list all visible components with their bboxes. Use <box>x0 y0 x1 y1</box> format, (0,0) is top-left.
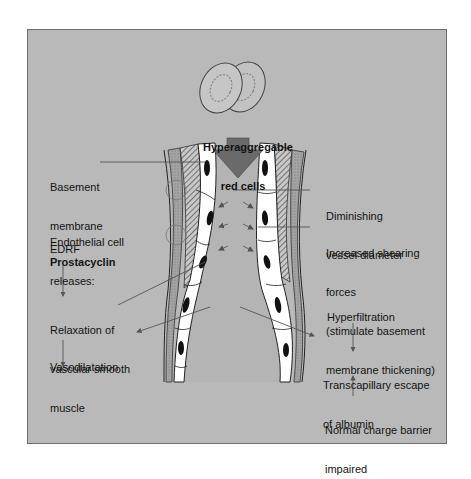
label-line: Relaxation of <box>50 324 130 337</box>
label-hyperfiltration: Hyperfiltration <box>327 311 395 324</box>
label-line: Transcapillary escape <box>323 379 430 392</box>
label-line: impaired <box>325 463 432 476</box>
label-prostacyclin: Prostacyclin <box>50 256 115 269</box>
label-line: Basement <box>50 181 103 194</box>
label-line: releases: <box>50 275 124 288</box>
label-line: (stimulate basement <box>326 325 435 338</box>
label-line: Increased shearing <box>326 247 435 260</box>
label-line: Hyperaggregable <box>203 141 283 154</box>
label-line: muscle <box>50 402 130 415</box>
label-edrf: EDRF <box>50 243 80 256</box>
label-line: forces <box>326 286 435 299</box>
label-vasodilatation: Vasodilatation <box>50 361 118 374</box>
label-hyperaggregable: Hyperaggregable red cells <box>203 115 283 206</box>
label-charge-barrier: Normal charge barrier impaired <box>325 398 432 479</box>
label-line: red cells <box>203 180 283 193</box>
label-line: Normal charge barrier <box>325 424 432 437</box>
red-blood-cell-icon <box>192 55 273 120</box>
